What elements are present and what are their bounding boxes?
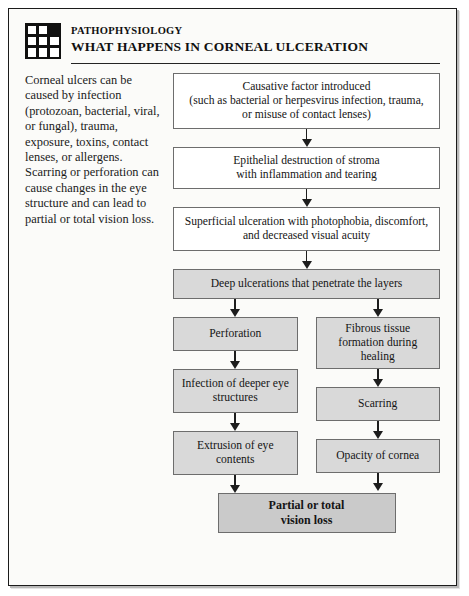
grid-cell (50, 48, 59, 57)
header-divider (71, 63, 440, 64)
section-kicker: PATHOPHYSIOLOGY (71, 24, 440, 37)
node-opacity-of-cornea: Opacity of cornea (316, 439, 441, 473)
node-label: Epithelial destruction of stroma with in… (233, 154, 380, 182)
node-causative-factor: Causative factor introduced (such as bac… (173, 73, 440, 129)
branch-left: Perforation Infection of deeper eye stru… (173, 299, 298, 493)
node-label: Causative factor introduced (such as bac… (189, 80, 423, 123)
page-title: WHAT HAPPENS IN CORNEAL ULCERATION (71, 38, 440, 56)
arrow-deep-to-fibrous (316, 299, 441, 317)
node-infection-deeper-structures: Infection of deeper eye structures (173, 369, 298, 413)
grid-cell (39, 37, 48, 46)
branch-container: Perforation Infection of deeper eye stru… (173, 299, 440, 493)
node-extrusion-eye-contents: Extrusion of eye contents (173, 431, 298, 475)
node-superficial-ulceration: Superficial ulceration with photophobia,… (173, 207, 440, 251)
node-perforation: Perforation (173, 317, 298, 351)
node-label: Superficial ulceration with photophobia,… (185, 215, 428, 243)
flowchart: Causative factor introduced (such as bac… (173, 73, 440, 533)
arrow-superficial-to-deep (173, 251, 440, 269)
node-label: Partial or total vision loss (269, 498, 345, 528)
node-fibrous-tissue-formation: Fibrous tissue formation during healing (316, 317, 441, 369)
header-titles: PATHOPHYSIOLOGY WHAT HAPPENS IN CORNEAL … (71, 23, 440, 56)
arrow-epithelial-to-superficial (173, 189, 440, 207)
node-label: Infection of deeper eye structures (182, 377, 289, 405)
node-label: Scarring (358, 397, 397, 411)
grid-cell (39, 26, 48, 35)
arrow-infection-to-extrusion (173, 413, 298, 431)
grid-cell (50, 37, 59, 46)
grid-cell (39, 48, 48, 57)
node-partial-or-total-vision-loss: Partial or total vision loss (218, 493, 396, 533)
node-label: Extrusion of eye contents (197, 439, 274, 467)
node-scarring: Scarring (316, 387, 441, 421)
grid-cell (28, 37, 37, 46)
arrow-fibrous-to-scarring (316, 369, 441, 387)
intro-paragraph: Corneal ulcers can be caused by infectio… (25, 73, 161, 533)
card-inner: PATHOPHYSIOLOGY WHAT HAPPENS IN CORNEAL … (9, 9, 456, 585)
node-epithelial-destruction: Epithelial destruction of stroma with in… (173, 147, 440, 189)
arrow-extrusion-to-vision-loss (173, 475, 298, 493)
node-deep-ulcerations: Deep ulcerations that penetrate the laye… (173, 269, 440, 299)
arrow-scarring-to-opacity (316, 421, 441, 439)
grid-cell (28, 26, 37, 35)
grid-cell (28, 48, 37, 57)
node-label: Deep ulcerations that penetrate the laye… (211, 277, 403, 291)
branch-right: Fibrous tissue formation during healing … (316, 299, 441, 493)
node-label: Perforation (209, 327, 261, 341)
pathophysiology-card: PATHOPHYSIOLOGY WHAT HAPPENS IN CORNEAL … (8, 8, 457, 586)
final-node-container: Partial or total vision loss (173, 493, 440, 533)
grid-cell (50, 26, 59, 35)
card-body: Corneal ulcers can be caused by infectio… (25, 73, 440, 533)
arrow-opacity-to-vision-loss (316, 473, 441, 491)
arrow-perforation-to-infection (173, 351, 298, 369)
arrow-cause-to-epithelial (173, 129, 440, 147)
card-header: PATHOPHYSIOLOGY WHAT HAPPENS IN CORNEAL … (25, 23, 440, 59)
node-label: Fibrous tissue formation during healing (338, 322, 417, 365)
node-label: Opacity of cornea (336, 449, 419, 463)
grid-icon (25, 23, 61, 59)
arrow-deep-to-perforation (173, 299, 298, 317)
